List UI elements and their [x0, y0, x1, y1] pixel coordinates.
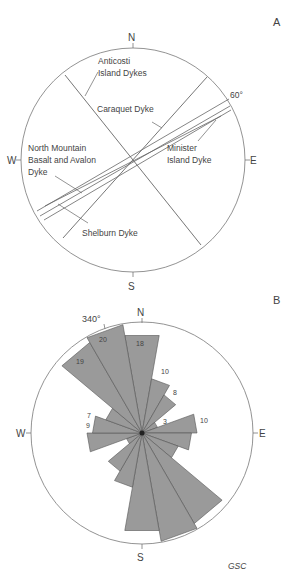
count-350-010: 18: [136, 340, 144, 347]
panel-b-label: B: [273, 294, 280, 306]
angle-60-label: 60°: [230, 90, 243, 100]
north-mountain-line3: Dyke: [28, 167, 48, 177]
count-030-050: 8: [173, 389, 177, 396]
anticosti-line2: Island Dykes: [98, 68, 147, 78]
minister-line1: Minister: [167, 143, 197, 153]
east-label-b: E: [259, 428, 266, 439]
count-010-030: 10: [161, 368, 169, 375]
south-label-a: S: [128, 281, 135, 292]
caraquet-label: Caraquet Dyke: [97, 104, 154, 114]
count-270-290: 9: [86, 422, 90, 429]
anticosti-label: Anticosti Island Dykes: [98, 56, 147, 78]
count-310-330: 19: [76, 358, 84, 365]
north-mountain-line1: North Mountain: [28, 143, 86, 153]
west-label-a: W: [7, 155, 17, 166]
south-label-b: S: [137, 552, 144, 563]
anticosti-leader: [85, 72, 98, 96]
north-mountain-label: North Mountain Basalt and Avalon Dyke: [28, 143, 98, 177]
gsc-credit: GSC: [228, 561, 247, 571]
west-label-b: W: [16, 428, 26, 439]
north-label-b: N: [137, 307, 144, 318]
north-mountain-leader: [55, 176, 82, 193]
caraquet-leader: [152, 122, 162, 128]
minister-label: Minister Island Dyke: [167, 143, 212, 165]
panel-b: B N S W E 340° 20 18 19 10 8 3 10 7 9 GS…: [16, 294, 280, 571]
anticosti-line1: Anticosti: [98, 56, 130, 66]
figure-canvas: A N S W E Anticosti Island Dykes Caraque…: [0, 0, 296, 579]
angle-340-label: 340°: [82, 314, 101, 324]
panel-a: A N S W E Anticosti Island Dykes Caraque…: [7, 16, 281, 292]
shelburn-leader: [58, 204, 88, 223]
east-label-a: E: [250, 155, 257, 166]
minister-line2: Island Dyke: [167, 155, 212, 165]
count-290-310: 7: [87, 412, 91, 419]
count-330-350: 20: [99, 336, 107, 343]
panel-a-label: A: [273, 16, 281, 28]
minister-dyke-line-2: [44, 110, 231, 220]
count-070-090: 10: [200, 417, 208, 424]
count-050-070: 3: [163, 418, 167, 425]
north-mountain-line2: Basalt and Avalon: [28, 155, 96, 165]
rose-center: [140, 431, 145, 436]
shelburn-label: Shelburn Dyke: [82, 228, 138, 238]
north-label-a: N: [128, 32, 135, 43]
